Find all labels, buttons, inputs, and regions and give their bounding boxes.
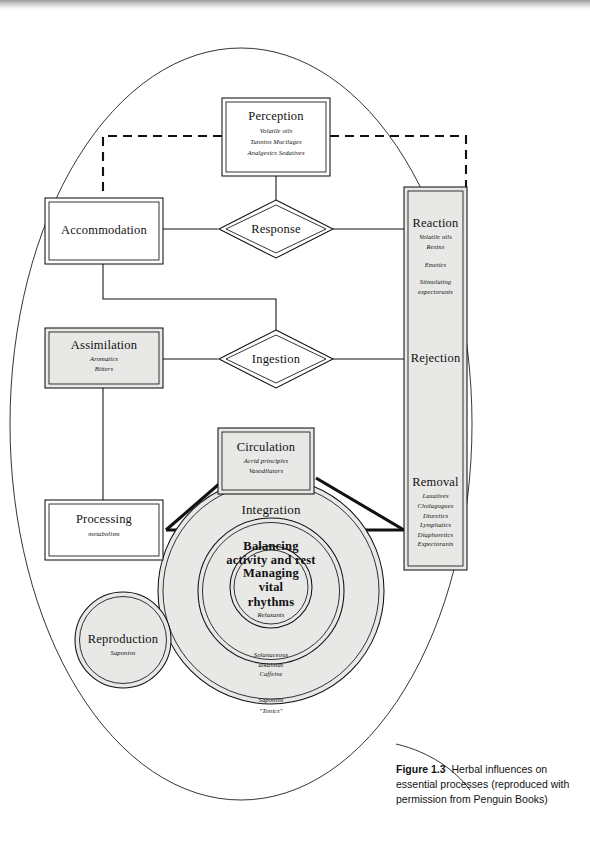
circulation-title: Circulation (222, 440, 310, 454)
circulation-line-1: Acrid principles (222, 457, 310, 465)
node-response: Response (226, 222, 326, 236)
node-reproduction: Reproduction Saponins (73, 632, 173, 657)
reproduction-line-1: Saponins (73, 649, 173, 657)
integration-ring-labels: Saponins "Tonics" (221, 696, 321, 714)
removal-line-4: Lymphatics (408, 521, 463, 529)
assimilation-title: Assimilation (49, 338, 159, 352)
reaction-line-5: expectorants (408, 288, 463, 296)
figure-caption: Figure 1.3 Herbal influences on essentia… (396, 762, 571, 808)
figure-caption-label: Figure 1.3 (396, 763, 446, 775)
node-assimilation: Assimilation Aromatics Bitters (49, 338, 159, 373)
reaction-line-1: Volatile oils (408, 233, 463, 241)
reaction-title: Reaction (408, 216, 463, 230)
processing-line-1: metabolism (49, 530, 159, 538)
node-accommodation: Accommodation (49, 223, 159, 237)
ring-mid-label-2: alkaloids (221, 661, 321, 669)
perception-line-2: Tannins Mucilages (226, 138, 326, 146)
assimilation-line-1: Aromatics (49, 355, 159, 363)
perception-line-3: Analgesics Sedatives (226, 149, 326, 157)
herbal-influences-diagram: .ln{stroke:#111;fill:none;} .thin{stroke… (0, 0, 590, 865)
processing-title: Processing (49, 512, 159, 526)
reaction-line-2: Resins (408, 243, 463, 251)
connector-accommodation-ingestion (103, 264, 276, 330)
node-rejection: Rejection (408, 351, 463, 365)
removal-line-5: Diaphoretics (408, 531, 463, 539)
integration-title: Integration (201, 503, 341, 518)
node-balancing: Balancing activity and rest (206, 539, 336, 568)
accommodation-title: Accommodation (49, 223, 159, 237)
node-removal: Removal Laxatives Cholagogues Diuretics … (408, 475, 463, 548)
response-title: Response (226, 222, 326, 236)
managing-title-line-1: Managing (221, 566, 321, 580)
managing-title-line-3: rhythms (221, 595, 321, 609)
removal-line-1: Laxatives (408, 492, 463, 500)
balancing-title-line-1: Balancing (206, 539, 336, 553)
perception-title: Perception (226, 109, 326, 123)
removal-line-2: Cholagogues (408, 502, 463, 510)
node-integration: Integration (201, 503, 341, 518)
node-ingestion: Ingestion (226, 352, 326, 366)
ring-outer-label-1: Saponins (221, 696, 321, 704)
perception-line-1: Volatile oils (226, 127, 326, 135)
removal-line-3: Diuretics (408, 512, 463, 520)
balancing-ring-labels: Solanaceous alkaloids Caffeine (221, 651, 321, 678)
ring-mid-label-1: Solanaceous (221, 651, 321, 659)
node-perception: Perception Volatile oils Tannins Mucilag… (226, 109, 326, 156)
node-managing: Managing vital rhythms Relaxants (221, 566, 321, 619)
node-reaction: Reaction Volatile oils Resins Emetics St… (408, 216, 463, 295)
rejection-title: Rejection (408, 351, 463, 365)
ingestion-title: Ingestion (226, 352, 326, 366)
removal-title: Removal (408, 475, 463, 489)
ring-outer-label-2: "Tonics" (221, 707, 321, 715)
removal-line-6: Expectorants (408, 540, 463, 548)
managing-title-line-2: vital (221, 580, 321, 594)
reaction-line-4: Stimulating (408, 278, 463, 286)
assimilation-line-2: Bitters (49, 365, 159, 373)
reproduction-title: Reproduction (73, 632, 173, 646)
node-processing: Processing metabolism (49, 512, 159, 538)
node-circulation: Circulation Acrid principles Vasodilator… (222, 440, 310, 475)
ring-mid-label-3: Caffeine (221, 670, 321, 678)
reaction-line-3: Emetics (408, 261, 463, 269)
circulation-line-2: Vasodilators (222, 467, 310, 475)
managing-sub: Relaxants (221, 611, 321, 619)
